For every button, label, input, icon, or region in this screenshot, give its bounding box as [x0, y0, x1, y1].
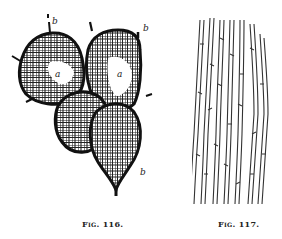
label-a-right: a [117, 69, 122, 79]
cell-bottom [90, 104, 140, 190]
figure-116-illustration: b b a a b [0, 0, 170, 205]
figure-116-caption: Fig. 116. [82, 219, 123, 229]
figure-117-caption: Fig. 117. [218, 219, 259, 229]
label-a-left: a [55, 69, 60, 79]
figure-117-illustration [192, 14, 272, 204]
label-b-right: b [143, 23, 149, 33]
label-b-bottom: b [140, 167, 146, 177]
label-b-top: b [52, 16, 58, 26]
